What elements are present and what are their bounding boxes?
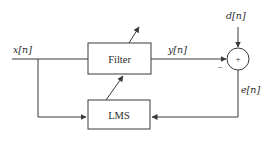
filter-label: Filter <box>108 54 131 65</box>
output-label: y[n] <box>167 44 187 55</box>
summing-junction: + − <box>217 48 249 72</box>
lms-label: LMS <box>108 110 130 121</box>
lms-diagram: x[n] Filter LMS y[n] + − d[n] e[n] <box>0 0 265 143</box>
error-line <box>152 70 238 117</box>
input-label: x[n] <box>13 44 32 55</box>
plus-sign: + <box>235 54 240 64</box>
input-to-lms-line <box>38 59 86 117</box>
desired-label: d[n] <box>226 10 246 21</box>
error-label: e[n] <box>241 84 260 95</box>
adaptive-arrow <box>129 27 139 43</box>
lms-block: LMS <box>88 100 150 129</box>
minus-sign: − <box>217 62 222 72</box>
filter-block: Filter <box>88 43 151 74</box>
weight-update-arrow <box>106 76 123 100</box>
